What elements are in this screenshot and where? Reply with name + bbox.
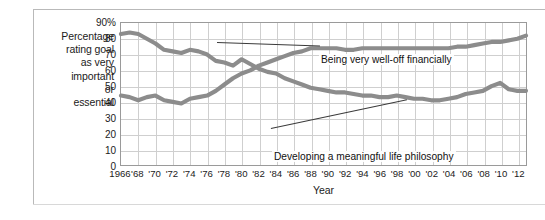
x-axis-tick-label: '72 — [166, 168, 179, 179]
chart-figure: Percentage rating goal as very important… — [0, 0, 545, 220]
x-axis-tick-label: '68 — [131, 168, 144, 179]
plot-area: Being very well-off financially Developi… — [120, 22, 527, 166]
x-axis-tick-label: '04 — [443, 168, 456, 179]
y-axis-tick-label: 40 — [84, 97, 116, 108]
figure-bottom-rule — [33, 204, 545, 205]
x-axis-tick-label: '08 — [477, 168, 490, 179]
x-axis-tick-label: '70 — [148, 168, 161, 179]
x-axis-tick-label: '82 — [252, 168, 265, 179]
figure-top-rule — [33, 9, 545, 10]
series-lines — [121, 23, 526, 165]
x-axis-tick-label: '80 — [235, 168, 248, 179]
y-axis-tick-label: 70 — [84, 49, 116, 60]
x-axis-tick-label: '94 — [356, 168, 369, 179]
x-axis-tick-label: '88 — [304, 168, 317, 179]
x-axis-tick-label: '00 — [408, 168, 421, 179]
x-axis-tick-label: '76 — [200, 168, 213, 179]
y-axis-tick-label: 20 — [84, 129, 116, 140]
x-axis-tick-label: '74 — [183, 168, 196, 179]
x-axis-tick-label: '12 — [512, 168, 525, 179]
y-axis-tick-label: 50 — [84, 81, 116, 92]
annotation-life-philosophy: Developing a meaningful life philosophy — [272, 151, 456, 162]
x-axis-tick-label: '84 — [270, 168, 283, 179]
y-axis-tick-label: 90% — [84, 17, 116, 28]
y-axis-tick-label: 10 — [84, 145, 116, 156]
x-axis-tick-label: '92 — [339, 168, 352, 179]
x-axis-tick-label: '90 — [322, 168, 335, 179]
x-axis-tick-label: '78 — [218, 168, 231, 179]
y-axis-tick-label: 30 — [84, 113, 116, 124]
x-axis-tick-label: '10 — [495, 168, 508, 179]
y-axis-tick-label: 80 — [84, 33, 116, 44]
y-axis-tick-label: 60 — [84, 65, 116, 76]
x-axis-tick-labels: 1966'68'70'72'74'76'78'80'82'84'86'88'90… — [120, 168, 527, 182]
x-axis-tick-label: '86 — [287, 168, 300, 179]
x-axis-tick-label: '06 — [460, 168, 473, 179]
figure-left-rule — [33, 9, 34, 204]
x-axis-tick-label: 1966 — [109, 168, 130, 179]
y-axis-tick-labels: 90%80706050403020100 — [84, 22, 116, 166]
x-axis-tick-label: '02 — [425, 168, 438, 179]
x-axis-tick-label: '98 — [391, 168, 404, 179]
annotation-well-off: Being very well-off financially — [319, 54, 454, 65]
series-line — [121, 32, 526, 100]
x-axis-title: Year — [120, 184, 527, 196]
x-axis-tick-label: '96 — [374, 168, 387, 179]
